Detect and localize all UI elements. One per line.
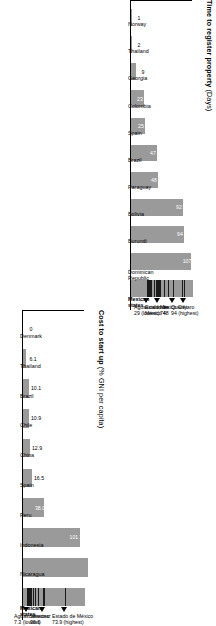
annotation-line-2: 73.9 (highest)	[52, 620, 93, 626]
category-label-time-6: Paraguay	[128, 184, 151, 190]
category-label-cost-1: Thailand	[20, 363, 41, 369]
category-label-cost-2: Brazil	[20, 393, 33, 399]
category-label-time-5: Brazil	[128, 157, 141, 163]
bar-time-9: 107	[131, 253, 191, 270]
state-tick	[182, 280, 183, 297]
bar-value-label: 1	[137, 15, 140, 21]
category-label-time-0: Norway	[128, 21, 146, 27]
category-label-cost-4: China	[20, 452, 34, 458]
state-tick	[184, 280, 185, 297]
category-label-time-7: Bolivia	[128, 211, 144, 217]
bar-value-label: 94	[177, 231, 183, 237]
bar-value-label: 0	[29, 326, 32, 332]
bar-value-label: 16.5	[34, 475, 44, 481]
chart-title-time-text: Time to register property	[205, 0, 214, 87]
annotation-line-2: 94 (highest)	[171, 311, 198, 317]
chart-time-to-register-property: Time to register property (Days) 1292325…	[108, 0, 216, 310]
bar-value-label: 25	[138, 123, 144, 129]
annotation-label: Veracruz35.6	[30, 614, 50, 626]
chart-unit-time: (Days)	[205, 90, 214, 112]
state-tick	[33, 588, 34, 606]
annotation-line-2: 35.6	[30, 620, 50, 626]
chart-unit-cost: (% GNI per capita)	[97, 367, 106, 428]
bar-value-label: 48	[151, 177, 157, 183]
state-tick	[160, 280, 161, 297]
state-tick	[164, 280, 165, 297]
bar-value-label: 10.1	[31, 385, 41, 391]
category-labels-cost: DenmarkThailandBrazilChileChinaSpainPeru…	[0, 310, 22, 620]
bar-value-label: 92	[176, 204, 182, 210]
annotation-arrow	[169, 298, 175, 303]
annotation-arrow	[154, 298, 160, 303]
bar-value-label: 107	[183, 258, 192, 264]
state-tick	[65, 588, 66, 606]
category-labels-time: NorwayThailandGeorgiaColombiaSpainBrazil…	[108, 0, 130, 310]
chart-title-time: Time to register property (Days)	[205, 0, 214, 111]
chart-cost-to-start-up: Cost to start up (% GNI per capita) 06.1…	[0, 310, 108, 620]
annotation-label: Querétaro94 (highest)	[171, 305, 198, 317]
bar-value-label: 101.7	[70, 534, 83, 540]
annotation-label: Estado de México73.9 (highest)	[52, 614, 93, 626]
category-label-cost-3: Chile	[20, 422, 32, 428]
bar-value-label: 12.9	[32, 445, 42, 451]
category-label-time-8: Burundi	[128, 238, 147, 244]
bar-value-label: 2	[138, 42, 141, 48]
category-label-time-2: Georgia	[128, 75, 147, 81]
annotation-arrow	[23, 607, 29, 612]
chart-title-cost-text: Cost to start up	[97, 310, 106, 365]
plot-area-time: 129232547489294107	[130, 0, 192, 310]
bar-value-label: 10.9	[31, 415, 41, 421]
bar-value-label: 47	[151, 150, 157, 156]
annotation-arrow	[39, 607, 45, 612]
state-tick	[44, 588, 45, 606]
category-label-line-2: Republic	[128, 275, 153, 281]
category-label-cost-6: Peru	[20, 512, 31, 518]
chart-title-cost: Cost to start up (% GNI per capita)	[97, 310, 106, 428]
category-label-cost-5: Spain	[20, 482, 34, 488]
category-label-cost-0: Denmark	[20, 333, 42, 339]
annotation-arrow	[143, 298, 149, 303]
range-bar-mexican-states	[23, 588, 85, 606]
range-bar-mexican-states	[131, 280, 193, 297]
annotation-arrow	[61, 607, 67, 612]
bars-container-time: 129232547489294107	[131, 0, 193, 310]
bar-value-label: 9	[142, 69, 145, 75]
category-label-cost-7: Indonesia	[20, 542, 43, 548]
bar-value-label: 6.1	[30, 356, 37, 362]
annotation-arrow	[180, 298, 186, 303]
state-tick	[151, 280, 152, 297]
bar-value-label: 23	[137, 96, 143, 102]
state-tick	[173, 280, 174, 297]
state-tick	[38, 588, 39, 606]
category-label-cost-8: Nicaragua	[20, 571, 45, 577]
category-label-time-1: Thailand	[128, 48, 149, 54]
state-tick	[35, 588, 36, 606]
state-tick	[154, 280, 155, 297]
bar-value-label: 38.0	[35, 505, 45, 511]
category-label-time-3: Colombia	[128, 103, 151, 109]
category-label-time-4: Spain	[128, 130, 142, 136]
state-tick	[168, 280, 169, 297]
category-label-time-9: DominicanRepublic	[128, 269, 153, 281]
